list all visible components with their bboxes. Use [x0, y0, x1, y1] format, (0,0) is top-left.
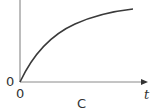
curve: [20, 9, 133, 82]
x-origin-label: 0: [16, 87, 24, 100]
x-axis-arrow-icon: [141, 79, 148, 85]
figure-caption: C: [77, 97, 86, 110]
y-origin-label: 0: [6, 75, 14, 88]
x-axis-label: t: [144, 88, 149, 101]
